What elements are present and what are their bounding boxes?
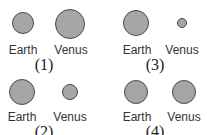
venus-circle — [172, 80, 196, 104]
option-number: (2) — [35, 124, 54, 135]
venus-label: Venus — [165, 44, 198, 56]
option-number: (1) — [35, 57, 54, 73]
earth-label: Earth — [9, 44, 38, 56]
venus-label: Venus — [167, 111, 200, 123]
earth-label: Earth — [8, 111, 37, 123]
venus-circle — [177, 18, 187, 28]
venus-circle — [55, 9, 85, 39]
planet-size-diagram: Earth Venus (1) Earth Venus (3) Earth Ve… — [0, 0, 207, 135]
earth-circle — [12, 12, 34, 34]
earth-label: Earth — [123, 111, 152, 123]
earth-circle — [124, 80, 148, 104]
option-number: (3) — [146, 57, 165, 73]
earth-circle — [123, 10, 149, 36]
venus-label: Venus — [54, 44, 87, 56]
venus-label: Venus — [53, 111, 86, 123]
earth-label: Earth — [123, 44, 152, 56]
option-number: (4) — [146, 124, 165, 135]
venus-circle — [62, 84, 78, 100]
earth-circle — [9, 79, 35, 105]
